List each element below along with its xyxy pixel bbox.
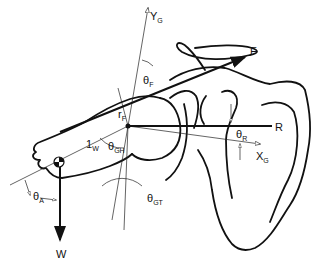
theta-F-label: θF — [143, 74, 153, 88]
annotations: θF rF θR θGH 1W θGT θA — [33, 74, 247, 206]
theta-GT-label: θGT — [147, 192, 164, 206]
humerus-outline — [33, 96, 160, 178]
humeral-head — [132, 91, 198, 180]
force-R-label: R — [275, 121, 283, 133]
theta-GT-arc — [102, 178, 142, 186]
theta-GH-label: θGH — [108, 140, 125, 154]
angle-arcs — [25, 60, 240, 200]
force-F-arrow — [60, 57, 245, 132]
force-W-label: W — [56, 248, 67, 260]
theta-R-label: θR — [236, 128, 247, 142]
x-axis-label: XG — [256, 150, 269, 164]
l-W-label: 1W — [86, 138, 99, 152]
reference-lines — [10, 88, 131, 230]
theta-A-label: θA — [33, 190, 44, 204]
y-axis-label: YG — [150, 10, 163, 24]
theta-F-arc — [142, 60, 153, 66]
center-of-mass-icon — [54, 157, 64, 167]
r-F-label: rF — [118, 108, 126, 122]
shoulder-diagram: YG XG F R W θF rF — [0, 0, 320, 267]
force-F-label: F — [250, 45, 257, 57]
